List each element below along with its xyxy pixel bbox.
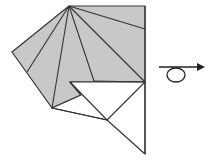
turn-over-icon [159, 63, 205, 82]
origami-diagram [0, 0, 215, 164]
